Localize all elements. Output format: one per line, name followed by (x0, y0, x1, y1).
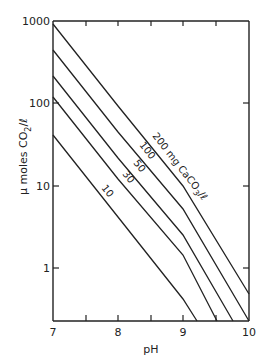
x-tick-10: 10 (242, 326, 256, 339)
y-axis-title: μ moles CO2/ℓ (17, 118, 33, 195)
x-tick-8: 8 (115, 326, 122, 339)
curve-30 (53, 97, 217, 321)
curve-label-50: 50 (131, 157, 148, 174)
curve-label-200: 200 mg CaCO3/ℓ (148, 130, 210, 203)
svg-text:μ moles CO2/ℓ: μ moles CO2/ℓ (17, 118, 33, 195)
y-tick-10: 10 (36, 180, 50, 193)
y-tick-1000: 1000 (22, 15, 50, 28)
y-tick-1: 1 (43, 262, 50, 275)
y-tick-100: 100 (29, 97, 50, 110)
chart: 1000 100 10 1 7 8 9 10 pH μ moles CO2/ℓ … (0, 0, 266, 364)
x-tick-7: 7 (50, 326, 57, 339)
x-tick-9: 9 (180, 326, 187, 339)
curve-label-30: 30 (120, 168, 137, 185)
x-axis-title: pH (143, 343, 158, 356)
curve-50 (53, 76, 233, 321)
curve-100 (53, 50, 249, 321)
curves (53, 24, 249, 321)
y-ticks (53, 103, 249, 268)
